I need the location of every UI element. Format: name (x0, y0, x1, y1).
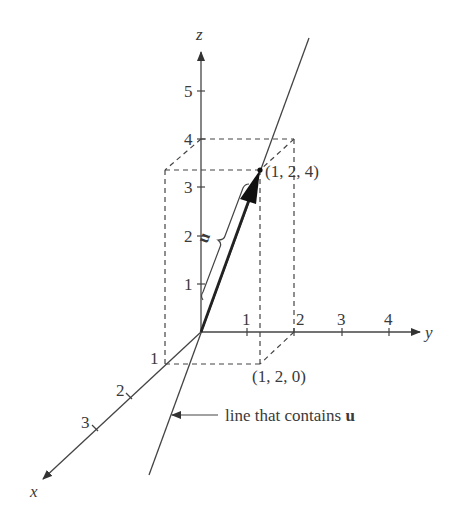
vector-label-u: u (193, 230, 214, 246)
point-label-base: (1, 2, 0) (252, 367, 306, 386)
y-tick-3: 3 (337, 310, 346, 329)
tip-point (257, 167, 262, 172)
z-axis-label: z (195, 25, 203, 44)
y-tick-4: 4 (384, 310, 393, 329)
z-tick-5: 5 (184, 82, 193, 101)
vector-u (201, 167, 263, 332)
x-tick-2: 2 (116, 381, 125, 400)
x-tick-1: 1 (150, 349, 159, 368)
x-axis-label: x (29, 482, 38, 501)
y-axis-label: y (423, 323, 433, 342)
y-tick-1: 1 (242, 310, 251, 329)
y-axis: y 1 2 3 4 (201, 310, 433, 342)
y-tick-2: 2 (296, 310, 305, 329)
x-axis: x 1 2 3 (29, 332, 201, 501)
x-tick-3: 3 (81, 413, 90, 432)
annotation: line that contains u (172, 406, 355, 425)
z-tick-4: 4 (184, 130, 193, 149)
point-label-tip: (1, 2, 4) (265, 162, 319, 181)
z-axis: z 1 2 3 4 5 (184, 25, 205, 332)
annotation-text: line that contains u (225, 406, 355, 425)
vector-diagram: z 1 2 3 4 5 y 1 2 3 4 x (0, 0, 462, 523)
z-tick-2: 2 (184, 227, 193, 246)
z-tick-1: 1 (184, 275, 193, 294)
z-tick-3: 3 (184, 178, 193, 197)
